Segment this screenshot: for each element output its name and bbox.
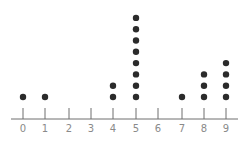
x-tick-label-7: 7	[179, 123, 185, 134]
x-axis-ticks	[23, 108, 226, 119]
x-tick-label-1: 1	[42, 123, 48, 134]
data-dot	[223, 71, 229, 77]
data-dot	[201, 71, 207, 77]
x-axis-tick-labels: 0123456789	[20, 123, 229, 134]
data-dot	[133, 60, 139, 66]
x-tick-label-9: 9	[223, 123, 229, 134]
x-tick-label-4: 4	[110, 123, 116, 134]
data-dot	[133, 94, 139, 100]
data-dots	[20, 15, 229, 101]
x-tick-label-2: 2	[66, 123, 72, 134]
data-dot	[201, 83, 207, 89]
data-dot	[223, 60, 229, 66]
data-dot	[133, 15, 139, 21]
x-tick-label-6: 6	[155, 123, 161, 134]
data-dot	[42, 94, 48, 100]
data-dot	[133, 83, 139, 89]
data-dot	[201, 94, 207, 100]
x-tick-label-8: 8	[201, 123, 207, 134]
data-dot	[133, 26, 139, 32]
data-dot	[223, 83, 229, 89]
x-tick-label-0: 0	[20, 123, 26, 134]
data-dot	[133, 37, 139, 43]
dot-plot: 0123456789	[0, 0, 252, 141]
data-dot	[110, 94, 116, 100]
x-tick-label-3: 3	[88, 123, 94, 134]
x-tick-label-5: 5	[133, 123, 139, 134]
data-dot	[110, 83, 116, 89]
data-dot	[133, 49, 139, 55]
data-dot	[179, 94, 185, 100]
data-dot	[133, 71, 139, 77]
data-dot	[20, 94, 26, 100]
data-dot	[223, 94, 229, 100]
